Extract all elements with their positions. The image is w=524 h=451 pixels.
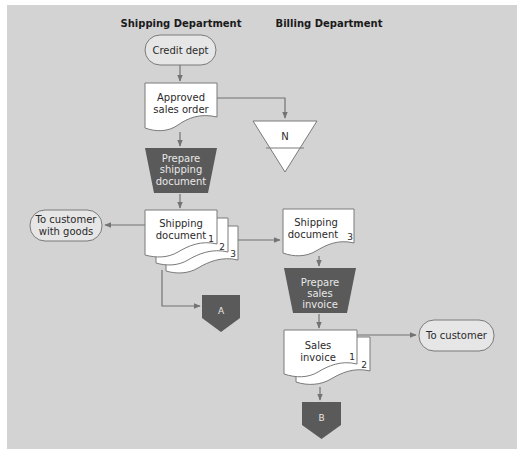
- node-to-customer-with-goods: To customer with goods: [30, 210, 102, 241]
- prepare-shipping-line2: shipping: [160, 164, 203, 175]
- node-prepare-shipping: Prepare shipping document: [145, 148, 217, 193]
- sales-invoice-line2: invoice: [300, 352, 336, 363]
- to-customer-goods-line2: with goods: [39, 226, 94, 237]
- node-to-customer: To customer: [419, 320, 494, 351]
- file-n-label: N: [281, 131, 288, 142]
- node-prepare-invoice: Prepare sales invoice: [284, 268, 356, 313]
- sales-invoice-copy-1: 1: [349, 352, 355, 362]
- prepare-invoice-line2: sales: [307, 288, 332, 299]
- to-customer-goods-line1: To customer: [35, 214, 98, 225]
- approved-sales-order-line2: sales order: [153, 104, 209, 115]
- header-shipping-department: Shipping Department: [120, 18, 241, 29]
- credit-dept-label: Credit dept: [152, 45, 208, 56]
- shipping-doc-line2: document: [156, 230, 207, 241]
- prepare-shipping-line3: document: [156, 176, 207, 187]
- shipping-doc-3-line1: Shipping: [294, 217, 338, 228]
- prepare-shipping-line1: Prepare: [162, 153, 200, 164]
- sales-invoice-copy-2: 2: [361, 360, 367, 370]
- flowchart-canvas: Shipping Department Billing Department C…: [0, 0, 524, 451]
- node-credit-dept: Credit dept: [145, 35, 216, 65]
- shipping-doc-3-line2: document: [288, 229, 339, 240]
- connector-a-label: A: [218, 306, 225, 316]
- connector-b-label: B: [318, 413, 324, 423]
- shipping-doc-line1: Shipping: [159, 218, 203, 229]
- shipping-doc-copy-3: 3: [230, 249, 236, 259]
- shipping-doc-copy-2: 2: [219, 242, 225, 252]
- prepare-invoice-line1: Prepare: [301, 277, 339, 288]
- header-billing-department: Billing Department: [276, 18, 383, 29]
- shipping-doc-copy-1: 1: [208, 234, 214, 244]
- sales-invoice-line1: Sales: [305, 340, 332, 351]
- to-customer-label: To customer: [425, 330, 488, 341]
- approved-sales-order-line1: Approved: [157, 92, 205, 103]
- shipping-doc-3-copy: 3: [347, 232, 353, 242]
- prepare-invoice-line3: invoice: [302, 299, 338, 310]
